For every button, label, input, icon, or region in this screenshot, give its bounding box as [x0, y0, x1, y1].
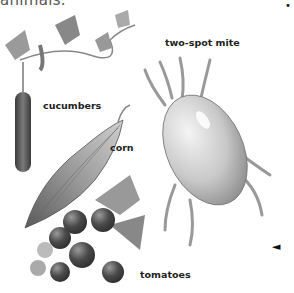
label-corn: corn	[110, 142, 134, 153]
two-spot-mite-illustration	[145, 58, 270, 245]
caption-line: p	[272, 289, 285, 293]
label-tomatoes: tomatoes	[140, 269, 191, 280]
caption-fragment: ◄ p to w re th	[272, 204, 285, 293]
label-cucumbers: cucumbers	[43, 100, 101, 111]
label-two-spot-mite: two-spot mite	[165, 37, 240, 48]
pointer-arrow-icon: ◄	[272, 238, 285, 255]
illustration-canvas	[0, 0, 294, 293]
